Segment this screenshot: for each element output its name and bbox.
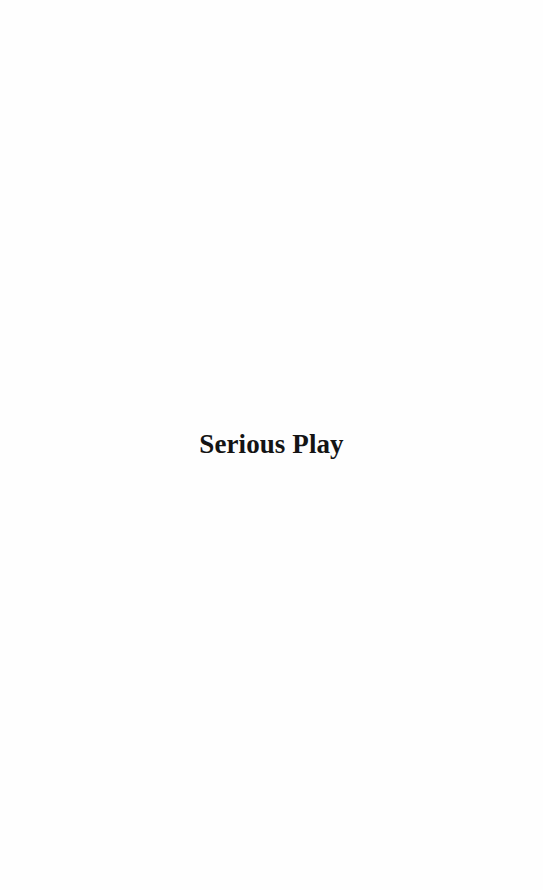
half-title: Serious Play [0, 428, 543, 460]
book-page: Serious Play [0, 0, 543, 890]
